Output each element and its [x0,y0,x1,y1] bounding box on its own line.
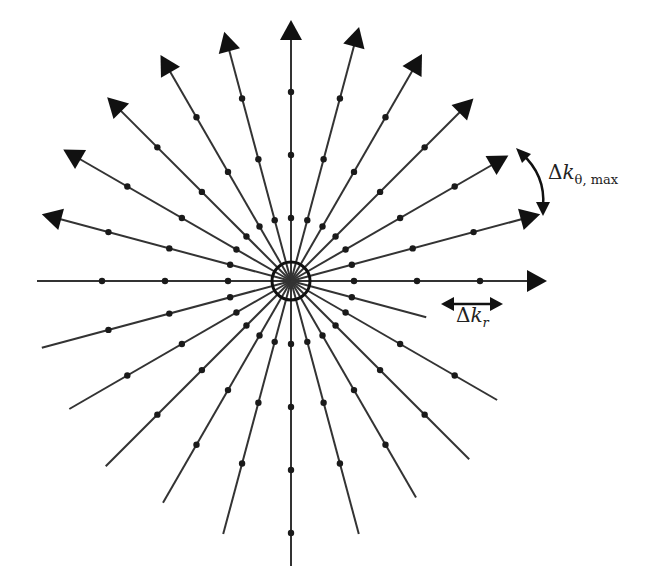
sample-point [349,261,355,267]
sample-point [342,309,348,315]
sample-point [225,278,231,284]
arrowhead-icon [161,55,181,78]
sample-point [179,215,185,221]
sample-point [256,223,262,229]
arrowhead-icon [42,209,64,230]
sample-point [255,400,261,406]
sample-point [351,278,357,284]
sample-point [271,217,277,223]
sample-point [351,387,357,393]
sample-point [288,152,294,158]
sample-point [421,411,427,417]
sample-point [477,278,483,284]
sample-point [332,233,338,239]
sample-point [288,341,294,347]
delta-theta-label: Δkθ, max [548,160,618,187]
sample-point [199,367,205,373]
delta-symbol: Δ [548,160,562,184]
arrowhead-icon [518,209,540,230]
sample-point [227,261,233,267]
delta-r-label: Δkr [456,303,489,330]
sample-point [105,327,111,333]
r-subscript: r [483,315,489,330]
k-variable: k [470,303,482,327]
sample-point [342,246,348,252]
arrowhead-icon [63,150,86,170]
sample-point [239,95,245,101]
spoke-line [291,281,497,400]
arrowhead-icon [219,32,240,54]
sample-point [225,169,231,175]
arrowhead-icon [527,270,547,292]
sample-point [166,310,172,316]
sample-point [288,404,294,410]
sample-point [105,229,111,235]
sample-point [382,114,388,120]
sample-point [199,189,205,195]
arrowhead-icon [280,20,302,40]
sample-point [382,441,388,447]
sample-point [421,144,427,150]
sample-point [304,339,310,345]
sample-point [320,400,326,406]
sample-point [166,245,172,251]
sample-point [288,467,294,473]
sample-point [193,114,199,120]
arrowhead-icon [343,27,364,49]
sample-point [451,183,457,189]
arrowhead-icon [402,54,422,77]
sample-point [351,169,357,175]
sample-point [233,246,239,252]
sample-point [377,189,383,195]
sample-point [271,339,277,345]
radial-kspace-diagram [0,0,651,567]
sample-point [288,215,294,221]
sample-point [320,156,326,162]
sample-point [124,372,130,378]
sample-point [227,294,233,300]
sample-point [239,460,245,466]
spoke-line [106,281,291,466]
sample-point [397,215,403,221]
theta-max-subscript: θ, max [575,172,619,187]
sample-point [179,341,185,347]
sample-point [470,229,476,235]
sample-point [304,217,310,223]
arrowhead-icon [486,156,509,176]
spoke-line [291,159,503,282]
sample-point [233,309,239,315]
sample-point [337,95,343,101]
sample-point [414,278,420,284]
delta-theta-arrow-icon [516,148,550,216]
k-variable: k [562,160,574,184]
sample-point [256,332,262,338]
spoke-line [291,281,426,317]
sample-point [243,322,249,328]
sample-point [288,530,294,536]
sample-point [337,460,343,466]
spoke-line [223,281,291,534]
spokes-group [37,20,547,566]
sample-point [332,322,338,328]
sample-point [193,441,199,447]
sample-point [410,245,416,251]
sample-point [288,89,294,95]
sample-point [154,144,160,150]
sample-point [162,278,168,284]
sample-point [255,156,261,162]
delta-symbol: Δ [456,303,470,327]
sample-point [451,372,457,378]
sample-point [154,411,160,417]
sample-point [319,332,325,338]
sample-point [124,183,130,189]
sample-point [99,278,105,284]
sample-point [349,294,355,300]
sample-point [225,387,231,393]
spoke-line [291,281,359,534]
sample-point [319,223,325,229]
sample-point [243,233,249,239]
sample-point [377,367,383,373]
sample-point [397,341,403,347]
